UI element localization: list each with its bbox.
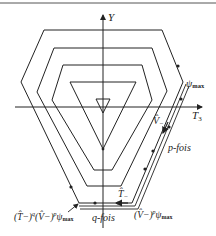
weight-dot <box>93 201 96 204</box>
q-fois-label: q-fois <box>92 212 115 223</box>
weight-dot <box>151 149 154 152</box>
weight-dot <box>102 148 105 151</box>
weight-diagram: Y T3 ψmax V̂− p-fois T̂− q-fois (T̂−)q(V… <box>0 0 216 236</box>
psi-max-label: ψmax <box>186 78 205 89</box>
t3-axis-label: T3 <box>192 109 202 123</box>
bottom-left-expression: (T̂−)q(V̂−)pψmax <box>14 210 73 223</box>
third-multiplet <box>52 65 152 170</box>
bottom-right-expression: (V̂−)pψmax <box>134 208 172 221</box>
y-axis-label: Y <box>108 11 116 23</box>
p-fois-label: p-fois <box>167 142 191 153</box>
weight-dot <box>69 185 72 188</box>
weight-dot <box>176 64 179 67</box>
weight-dot <box>179 97 182 100</box>
weight-dot <box>143 167 146 170</box>
bottom-left-pointer <box>68 204 78 212</box>
t-minus-label: T̂− <box>118 187 129 201</box>
weight-dot <box>167 125 170 128</box>
v-minus-label: V̂− <box>153 114 164 128</box>
